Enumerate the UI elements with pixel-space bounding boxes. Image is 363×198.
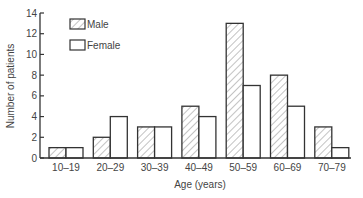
bar-female (199, 117, 216, 158)
y-axis-label: Number of patients (5, 44, 16, 129)
y-tick-label: 10 (26, 49, 38, 60)
x-tick-label: 10–19 (52, 162, 80, 173)
bar-female (243, 86, 260, 159)
bar-female (155, 127, 172, 158)
y-tick-label: 4 (31, 111, 37, 122)
bar-male (315, 127, 332, 158)
y-tick-label: 6 (31, 90, 37, 101)
x-tick-label: 50–59 (229, 162, 257, 173)
y-tick-label: 8 (31, 70, 37, 81)
bar-male (271, 75, 288, 158)
bar-female (110, 117, 127, 158)
x-tick-label: 40–49 (185, 162, 213, 173)
y-tick-label: 2 (31, 132, 37, 143)
bar-male (49, 148, 66, 158)
y-tick-label: 12 (26, 28, 38, 39)
bar-chart: 02468101214 10–1920–2930–3940–4950–5960–… (0, 0, 363, 198)
y-tick-label: 0 (31, 153, 37, 164)
bar-female (66, 148, 83, 158)
legend: Male Female (70, 19, 121, 51)
x-tick-label: 70–79 (318, 162, 346, 173)
x-tick-label: 30–39 (141, 162, 169, 173)
legend-label-male: Male (87, 19, 109, 30)
x-tick-label: 60–69 (274, 162, 302, 173)
y-tick-label: 14 (26, 8, 38, 19)
y-axis: 02468101214 (26, 8, 44, 164)
legend-swatch-male (70, 19, 85, 29)
bar-male (182, 106, 199, 158)
x-axis-label: Age (years) (174, 179, 226, 190)
legend-swatch-female (70, 40, 85, 50)
x-axis: 10–1920–2930–3940–4950–5960–6970–79 (40, 158, 351, 173)
x-tick-label: 20–29 (96, 162, 124, 173)
bar-female (288, 106, 305, 158)
bar-female (332, 148, 349, 158)
bar-male (138, 127, 155, 158)
bar-male (226, 23, 243, 158)
legend-label-female: Female (87, 40, 121, 51)
bar-male (93, 137, 110, 158)
